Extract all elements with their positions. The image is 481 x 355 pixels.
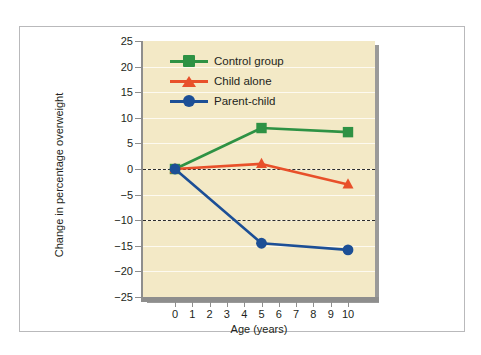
x-axis-tick [313,302,314,307]
y-axis-tick-label: 0 [93,163,133,175]
y-axis-tick [135,220,141,221]
legend-swatch [170,93,208,109]
series-line [175,169,348,250]
y-axis-tick-label: −20 [93,265,133,277]
x-axis-tick [296,302,297,307]
legend-swatch [170,53,208,69]
data-point-marker [256,123,266,133]
y-axis-tick [135,246,141,247]
x-axis-tick [331,302,332,307]
data-point-marker [343,127,353,137]
x-axis-tick [279,302,280,307]
legend-marker-square-icon [183,55,195,67]
y-axis-tick-label: 10 [93,112,133,124]
x-axis-tick [210,302,211,307]
y-axis-tick [135,297,141,298]
y-axis-tick-label: −15 [93,240,133,252]
legend-item[interactable]: Child alone [170,71,330,91]
y-axis-tick-label: 15 [93,86,133,98]
y-axis-tick [135,92,141,93]
legend-item[interactable]: Parent-child [170,91,330,111]
y-axis-tick [135,143,141,144]
y-axis-tick-label: −5 [93,189,133,201]
x-axis-tick [262,302,263,307]
series-child-alone [170,158,354,189]
y-axis-tick-label: 5 [93,137,133,149]
legend-label: Control group [214,55,284,67]
series-parent-child [170,164,354,256]
x-axis-tick [348,302,349,307]
x-axis-tick [244,302,245,307]
y-axis-tick-label: −10 [93,214,133,226]
y-axis-tick [135,169,141,170]
y-axis-tick-label: 20 [93,61,133,73]
legend-marker-circle-icon [183,95,195,107]
x-axis-tick-label: 10 [336,308,360,320]
legend-swatch [170,73,208,89]
legend-item[interactable]: Control group [170,51,330,71]
figure-frame: 2520151050−5−10−15−20−25 012345678910 Ch… [19,26,465,332]
x-axis-line [141,297,379,302]
line-chart: 2520151050−5−10−15−20−25 012345678910 Ch… [20,27,466,333]
y-axis-tick [135,271,141,272]
y-axis-tick [135,41,141,42]
x-axis-tick [192,302,193,307]
y-axis-tick [135,67,141,68]
legend-label: Child alone [214,75,272,87]
x-axis-tick [227,302,228,307]
y-axis-tick-label: 25 [93,35,133,47]
data-point-marker [343,244,354,255]
y-axis-tick-label: −25 [93,291,133,303]
y-axis-title: Change in percentage overweight [53,70,65,280]
y-axis-tick [135,195,141,196]
x-axis-title: Age (years) [143,323,375,335]
x-axis-tick [175,302,176,307]
legend-marker-triangle-icon [182,76,196,87]
y-axis-tick [135,118,141,119]
chart-legend: Control groupChild aloneParent-child [170,51,330,111]
legend-label: Parent-child [214,95,275,107]
data-point-marker [256,238,267,249]
y-axis-tick-labels: 2520151050−5−10−15−20−25 [88,27,133,333]
data-point-marker [170,164,181,175]
